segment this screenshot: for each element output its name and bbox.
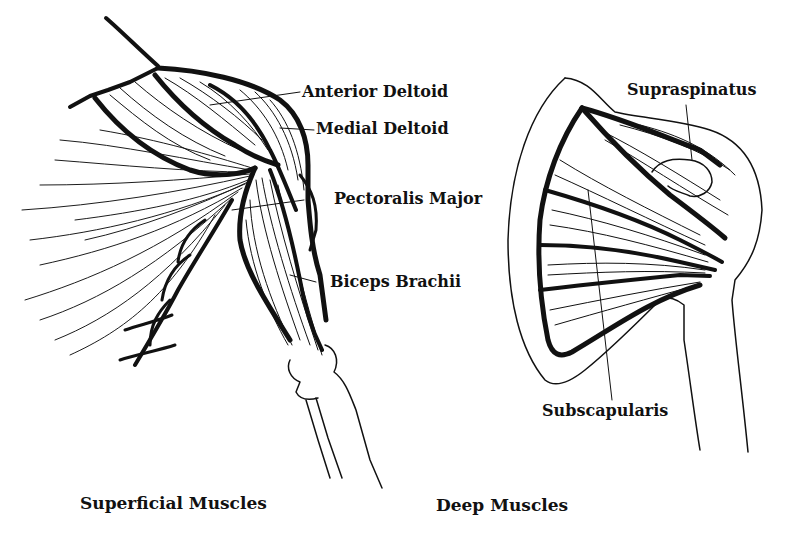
label-subscapularis: Subscapularis xyxy=(542,403,668,419)
label-medial-deltoid: Medial Deltoid xyxy=(316,121,449,137)
deep-muscles-figure xyxy=(508,78,762,452)
label-biceps-brachii: Biceps Brachii xyxy=(330,274,461,290)
label-anterior-deltoid: Anterior Deltoid xyxy=(302,84,448,100)
label-supraspinatus: Supraspinatus xyxy=(627,82,756,98)
caption-superficial-muscles: Superficial Muscles xyxy=(80,495,267,512)
label-pectoralis-major: Pectoralis Major xyxy=(334,191,482,207)
caption-deep-muscles: Deep Muscles xyxy=(436,497,568,514)
